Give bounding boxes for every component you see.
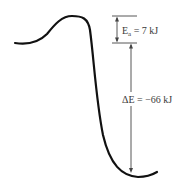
energy-change-label: ΔE = −66 kJ: [122, 94, 172, 105]
energy-change-arrow: [129, 44, 133, 174]
activation-energy-arrow: [115, 17, 119, 43]
activation-energy-label: Ea = 7 kJ: [122, 25, 158, 38]
energy-profile-diagram: Ea = 7 kJ ΔE = −66 kJ: [0, 0, 193, 190]
